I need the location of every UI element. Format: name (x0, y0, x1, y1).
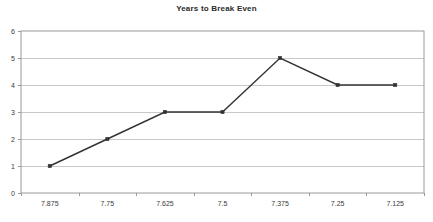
y-axis-labels: 0123456 (11, 28, 15, 197)
y-axis-tick-label: 2 (11, 136, 15, 143)
x-axis-tick-label: 7.625 (156, 200, 174, 207)
y-axis-tick-label: 6 (11, 28, 15, 35)
y-axis-tick-label: 5 (11, 55, 15, 62)
x-axis-tick-label: 7.875 (41, 200, 59, 207)
data-point-marker (163, 110, 166, 113)
x-axis-tick-label: 7.5 (218, 200, 228, 207)
data-point-marker (221, 110, 224, 113)
y-axis-tick-label: 4 (11, 82, 15, 89)
data-point-marker (106, 137, 109, 140)
data-point-marker (336, 83, 339, 86)
line-chart-plot: 0123456 7.8757.757.6257.57.3757.257.125 (0, 0, 433, 222)
data-point-marker (278, 56, 281, 59)
x-axis-tick-label: 7.25 (331, 200, 345, 207)
x-axis-labels: 7.8757.757.6257.57.3757.257.125 (41, 200, 404, 207)
y-axis-tick-label: 3 (11, 109, 15, 116)
y-axis-tick-label: 0 (11, 190, 15, 197)
x-axis-tick-label: 7.125 (386, 200, 404, 207)
data-point-marker (48, 164, 51, 167)
y-axis-tick-label: 1 (11, 163, 15, 170)
x-axis-tick-label: 7.375 (271, 200, 289, 207)
data-point-marker (394, 83, 397, 86)
chart-container: Years to Break Even 0123456 7.8757.757.6… (0, 0, 433, 222)
x-axis-tick-label: 7.75 (101, 200, 115, 207)
